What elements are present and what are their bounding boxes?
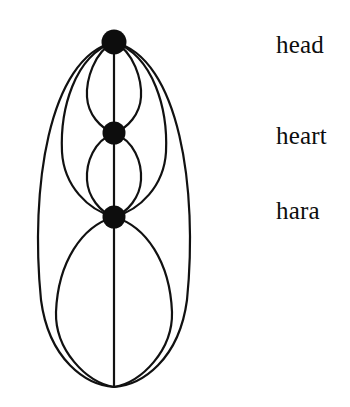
node-label-heart: heart [276,123,327,148]
node-heart[interactable] [103,122,126,145]
edge-base-left [56,217,114,387]
edge-lower-left [87,133,114,217]
figure-root: head heart hara [0,0,350,407]
node-head[interactable] [102,30,127,55]
node-hara[interactable] [103,206,126,229]
edge-base-right [114,217,172,387]
edge-lower-right [114,133,141,217]
edge-outer-right [114,42,190,387]
node-label-hara: hara [276,198,320,223]
edge-outer-left [38,42,114,387]
node-label-head: head [276,32,324,57]
